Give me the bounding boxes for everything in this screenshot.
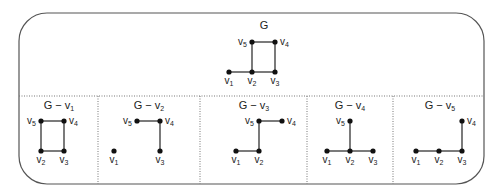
vertex-v3 (61, 148, 66, 153)
vertex-v1 (233, 148, 238, 153)
vertex-label-v3: v3 (369, 154, 378, 166)
vertex-label-v4: v4 (69, 115, 78, 127)
subgraph-panel-v4: G − v4v1v2v3v5 (323, 99, 378, 166)
vertex-v2 (436, 148, 441, 153)
vertex-label-v1: v1 (323, 154, 332, 166)
vertex-v4 (279, 118, 284, 123)
subgraph-panel-v5: G − v5v1v2v3v4 (412, 99, 476, 166)
vertex-v1 (226, 69, 231, 74)
vertex-label-v1: v1 (232, 154, 241, 166)
vertex-label-v3: v3 (60, 154, 69, 166)
main-graph-title: G (260, 19, 269, 31)
vertex-v4 (272, 39, 277, 44)
subgraph-panels: G − v1v2v3v4v5G − v2v1v3v4v5G − v3v1v2v4… (27, 99, 476, 166)
vertex-v2 (249, 69, 254, 74)
vertex-label-v1: v1 (225, 75, 234, 87)
main-graph-G: G v1v2v3v4v5 (225, 19, 289, 87)
subgraph-panel-v2: G − v2v1v3v4v5 (110, 99, 174, 166)
subgraph-title: G − v5 (425, 99, 456, 112)
vertex-label-v4: v4 (165, 115, 174, 127)
vertex-label-v2: v2 (255, 154, 264, 166)
subgraph-title: G − v3 (239, 99, 270, 112)
vertex-v3 (157, 148, 162, 153)
subgraph-title: G − v4 (335, 99, 366, 112)
vertex-v1 (413, 148, 418, 153)
vertex-v3 (272, 69, 277, 74)
vertex-label-v5: v5 (123, 115, 132, 127)
vertex-v2 (256, 148, 261, 153)
vertex-v1 (111, 148, 116, 153)
vertex-v4 (157, 118, 162, 123)
vertex-label-v4: v4 (280, 36, 289, 48)
vertex-v2 (347, 148, 352, 153)
vertex-v5 (256, 118, 261, 123)
subgraph-title: G − v1 (44, 99, 75, 112)
vertex-v3 (459, 148, 464, 153)
vertex-v4 (61, 118, 66, 123)
vertex-label-v2: v2 (346, 154, 355, 166)
vertex-v1 (324, 148, 329, 153)
vertex-label-v2: v2 (248, 75, 257, 87)
subgraph-panel-v3: G − v3v1v2v4v5 (232, 99, 296, 166)
subgraph-title: G − v2 (134, 99, 165, 112)
vertex-label-v4: v4 (467, 115, 476, 127)
vertex-label-v5: v5 (245, 115, 254, 127)
vertex-label-v5: v5 (336, 115, 345, 127)
vertex-v4 (459, 118, 464, 123)
vertex-label-v4: v4 (287, 115, 296, 127)
vertex-label-v1: v1 (412, 154, 421, 166)
vertex-deleted-subgraphs-figure: G v1v2v3v4v5 G − v1v2v3v4v5G − v2v1v3v4v… (0, 0, 502, 188)
vertex-v2 (38, 148, 43, 153)
vertex-label-v1: v1 (110, 154, 119, 166)
subgraph-panel-v1: G − v1v2v3v4v5 (27, 99, 78, 166)
vertex-v3 (370, 148, 375, 153)
vertex-label-v3: v3 (156, 154, 165, 166)
vertex-v5 (249, 39, 254, 44)
vertex-label-v2: v2 (435, 154, 444, 166)
vertex-label-v2: v2 (37, 154, 46, 166)
vertex-label-v3: v3 (458, 154, 467, 166)
vertex-v5 (134, 118, 139, 123)
vertex-v5 (347, 118, 352, 123)
vertex-v5 (38, 118, 43, 123)
vertex-label-v3: v3 (271, 75, 280, 87)
vertex-label-v5: v5 (238, 36, 247, 48)
vertex-label-v5: v5 (27, 115, 36, 127)
